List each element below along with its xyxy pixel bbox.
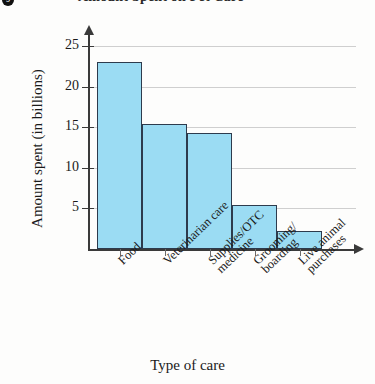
gridline xyxy=(88,46,356,47)
y-axis-tick xyxy=(82,87,94,88)
y-axis-line xyxy=(88,34,90,249)
bar-3 xyxy=(187,133,232,249)
bar-4 xyxy=(232,205,277,249)
x-axis-tick xyxy=(165,249,166,256)
y-axis-tick xyxy=(82,208,94,209)
y-axis-tick xyxy=(82,168,94,169)
y-axis-tick-label: 25 xyxy=(65,37,79,53)
chart-title-strip: 9 Amount Spent on Pet Care xyxy=(0,0,375,11)
y-axis-tick-label: 10 xyxy=(65,159,79,175)
y-axis-tick-label: 20 xyxy=(65,78,79,94)
y-axis-tick-label: 5 xyxy=(72,199,79,215)
x-axis-arrow-icon xyxy=(354,244,364,254)
bar-5 xyxy=(277,231,322,249)
x-axis-tick xyxy=(120,249,121,256)
figure-number-badge: 9 xyxy=(2,0,14,6)
bar-2 xyxy=(142,124,187,249)
x-axis-title: Type of care xyxy=(0,357,375,374)
x-axis-tick xyxy=(300,249,301,256)
chart-title: Amount Spent on Pet Care xyxy=(78,0,358,5)
y-axis-title: Amount spent (in billions) xyxy=(29,24,46,274)
y-axis-tick-label: 15 xyxy=(65,118,79,134)
pet-care-bar-chart-figure: 9 Amount Spent on Pet Care Amount spent … xyxy=(0,0,375,384)
x-axis-tick xyxy=(210,249,211,256)
y-axis-tick xyxy=(82,46,94,47)
plot-area: 510152025 xyxy=(88,34,360,249)
y-axis-tick xyxy=(82,127,94,128)
bar-1 xyxy=(97,62,142,249)
x-axis-tick xyxy=(255,249,256,256)
x-axis-line xyxy=(88,249,356,251)
y-axis-arrow-icon xyxy=(84,25,94,35)
